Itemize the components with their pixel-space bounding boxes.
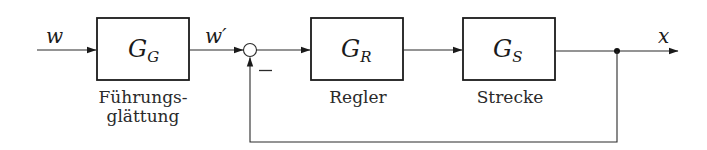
block-controller: GR Regler: [311, 18, 403, 107]
summing-junction: [244, 44, 257, 57]
output-signal-label: x: [658, 24, 669, 48]
block-diagram: w GG Führungs- glättung w′ GR Regler GS …: [0, 0, 707, 150]
block-gs-caption: Strecke: [477, 87, 544, 107]
input-signal-label: w: [46, 24, 63, 48]
block-gg-caption-line2: glättung: [107, 106, 180, 126]
feedback-path: [250, 51, 617, 142]
filtered-reference-label: w′: [205, 24, 227, 48]
block-plant: GS Strecke: [463, 18, 555, 107]
block-gg-caption-line1: Führungs-: [98, 87, 187, 107]
block-gr-caption: Regler: [329, 87, 387, 107]
block-reference-filter: GG Führungs- glättung: [97, 18, 189, 126]
